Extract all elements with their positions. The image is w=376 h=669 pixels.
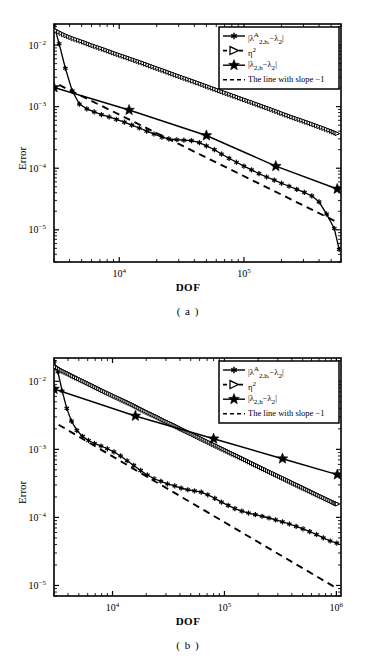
tick-label: 10−5 (29, 579, 47, 591)
legend: |λA2,hi−λ2|η2|λ2,h−λ2|The line with slop… (219, 27, 339, 89)
chart-panel-b: 10410510610−210−310−410−5|λA2,hi−λ2|η2|λ… (0, 334, 376, 634)
tick-label: 105 (218, 601, 232, 613)
tick-label: 10−3 (29, 443, 47, 455)
legend-label: The line with slope −1 (248, 72, 338, 87)
tick-label: 104 (112, 267, 126, 279)
panel-a: 10410510−210−310−410−5|λA2,hi−λ2|η2|λ2,h… (0, 0, 376, 335)
y-axis-title-b: Error (16, 481, 28, 504)
tick-label: 106 (330, 601, 344, 613)
tick-label: 10−2 (29, 39, 47, 51)
series-3 (59, 85, 337, 222)
legend-label: |λA2,hi−λ2| (248, 362, 338, 378)
series-3 (59, 425, 338, 589)
legend-label: The line with slope −1 (248, 406, 338, 421)
x-axis-title-a: DOF (0, 281, 376, 293)
tick-label: 105 (237, 267, 251, 279)
legend-label: |λ2,h−λ2| (248, 391, 338, 407)
data-point-marker (277, 453, 288, 463)
chart-panel-a: 10410510−210−310−410−5|λA2,hi−λ2|η2|λ2,h… (0, 0, 376, 300)
tick-label: 10−4 (29, 511, 47, 523)
slope-reference-line (59, 85, 337, 222)
slope-reference-line (59, 425, 338, 589)
series-2 (49, 82, 343, 194)
figure-container: 10410510−210−310−410−5|λA2,hi−λ2|η2|λ2,h… (0, 0, 376, 669)
legend-label: |λ2,h−λ2| (248, 57, 338, 73)
tick-label: 10−4 (29, 162, 47, 174)
data-point-marker (201, 130, 212, 140)
legend-label: |λA2,hi−λ2| (248, 28, 338, 44)
x-axis-title-b: DOF (0, 615, 376, 627)
panel-b: 10410510610−210−310−410−5|λA2,hi−λ2|η2|λ… (0, 334, 376, 669)
tick-label: 10−2 (29, 375, 47, 387)
tick-label: 10−5 (29, 223, 47, 235)
data-point-marker (130, 410, 141, 420)
data-point-marker (270, 161, 281, 171)
legend-label: η2 (248, 377, 338, 393)
tick-label: 104 (106, 601, 120, 613)
legend-label: η2 (248, 43, 338, 59)
legend: |λA2,hi−λ2|η2|λ2,h−λ2|The line with slop… (219, 361, 339, 423)
y-axis-title-a: Error (16, 147, 28, 170)
tick-label: 10−3 (29, 100, 47, 112)
panel-caption-a: ( a ) (0, 305, 376, 317)
panel-caption-b: ( b ) (0, 639, 376, 651)
data-point-marker (124, 104, 135, 114)
